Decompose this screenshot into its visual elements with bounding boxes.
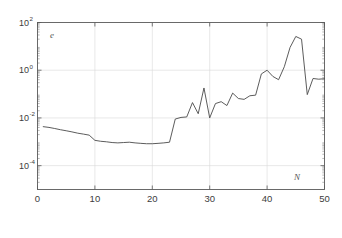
x-tick-label: 20 xyxy=(147,193,158,204)
x-tick-label: 10 xyxy=(90,193,101,204)
y-tick-exponent: 2 xyxy=(30,15,34,22)
y-tick-base: 10 xyxy=(19,65,29,75)
y-tick-base: 10 xyxy=(19,113,29,123)
y-axis-label: e xyxy=(50,30,54,40)
x-tick-label: 40 xyxy=(262,193,273,204)
x-tick-label: 0 xyxy=(35,193,40,204)
y-tick-exponent: -4 xyxy=(30,158,36,165)
x-axis-label: N xyxy=(293,172,301,182)
y-tick-base: 10 xyxy=(19,18,29,28)
figure-canvas: 10210010-210-4 01020304050 e N xyxy=(0,0,342,238)
y-tick-exponent: -2 xyxy=(30,110,36,117)
y-tick-base: 10 xyxy=(19,161,29,171)
x-tick-label: 30 xyxy=(204,193,215,204)
y-tick-exponent: 0 xyxy=(30,63,34,70)
log-line-chart: 10210010-210-4 01020304050 e N xyxy=(0,0,342,238)
x-tick-label: 50 xyxy=(319,193,330,204)
